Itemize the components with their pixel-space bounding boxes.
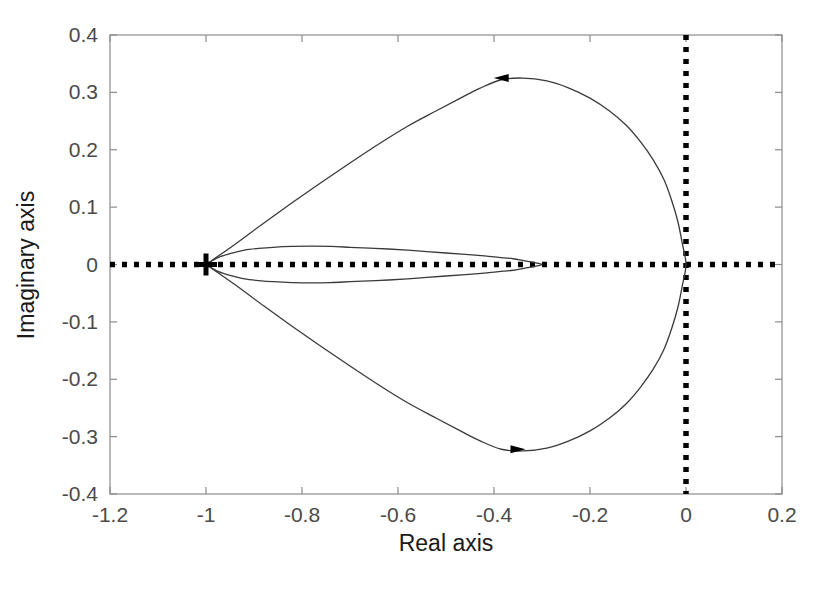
x-tick-label: -0.6 — [380, 503, 416, 526]
lower-direction-arrow — [511, 445, 526, 453]
x-tick-label: -1 — [197, 503, 216, 526]
y-axis-tick-labels: -0.4-0.3-0.2-0.100.10.20.30.4 — [62, 23, 99, 505]
x-tick-label: 0.2 — [767, 503, 796, 526]
nyquist-figure: -1.2-1-0.8-0.6-0.4-0.200.2 -0.4-0.3-0.2-… — [0, 0, 831, 591]
x-tick-label: -0.8 — [284, 503, 320, 526]
x-tick-label: 0 — [680, 503, 692, 526]
x-tick-label: -0.4 — [476, 503, 513, 526]
y-tick-label: -0.1 — [62, 310, 98, 333]
y-tick-label: 0.4 — [69, 23, 99, 46]
y-tick-label: -0.4 — [62, 482, 99, 505]
critical-point — [195, 254, 217, 276]
markers-group — [195, 254, 217, 276]
plot-canvas: -1.2-1-0.8-0.6-0.4-0.200.2 -0.4-0.3-0.2-… — [0, 0, 831, 591]
x-tick-label: -1.2 — [92, 503, 128, 526]
y-axis-title: Imaginary axis — [13, 191, 39, 339]
y-tick-label: -0.3 — [62, 425, 98, 448]
y-tick-label: 0.1 — [69, 195, 98, 218]
x-axis-tick-labels: -1.2-1-0.8-0.6-0.4-0.200.2 — [92, 503, 797, 526]
x-axis-title: Real axis — [399, 530, 494, 556]
x-tick-label: -0.2 — [572, 503, 608, 526]
y-tick-label: -0.2 — [62, 367, 98, 390]
y-tick-label: 0.2 — [69, 138, 98, 161]
y-tick-label: 0.3 — [69, 80, 98, 103]
y-tick-label: 0 — [86, 253, 98, 276]
